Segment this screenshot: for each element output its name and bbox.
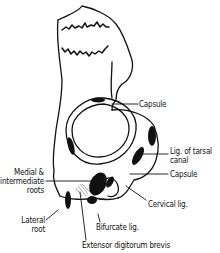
label-lig-tarsal-canal: Lig. of tarsal canal [170, 147, 212, 165]
fracture-line-lower [62, 46, 108, 56]
joint-outer [66, 98, 136, 164]
label-line: roots [0, 186, 44, 195]
label-line: Lateral [21, 216, 45, 225]
joint-inner [72, 104, 129, 157]
label-medial-intermediate-roots: Medial & intermediate roots [0, 168, 44, 195]
label-cervical-lig: Cervical lig. [148, 200, 188, 209]
bone-inner-edge [111, 62, 112, 98]
label-line: intermediate [0, 177, 44, 186]
bone-outline [58, 6, 133, 110]
label-capsule-right: Capsule [170, 170, 197, 179]
label-capsule-top: Capsule [139, 100, 166, 109]
leader-cervical [126, 186, 146, 200]
ligament-mass [130, 145, 147, 166]
label-line: root [21, 225, 45, 234]
ligament-mass [65, 191, 71, 209]
leader-lateral [46, 210, 58, 220]
ligament-mass [91, 98, 105, 103]
fracture-line-upper [62, 22, 109, 30]
ligament-mass [148, 126, 156, 146]
bone-left-edge [53, 20, 62, 196]
hatch-area [76, 184, 90, 196]
label-lateral-root: Lateral root [21, 216, 45, 234]
label-bifurcate-lig: Bifurcate lig. [96, 223, 139, 232]
ligament-mass [87, 196, 97, 204]
leader-bifurcate [98, 214, 100, 222]
label-line: canal [170, 156, 212, 165]
label-extensor-digitorum-brevis: Extensor digitorum brevis [82, 241, 170, 250]
label-line: Lig. of tarsal [170, 147, 212, 156]
label-line: Medial & [0, 168, 44, 177]
